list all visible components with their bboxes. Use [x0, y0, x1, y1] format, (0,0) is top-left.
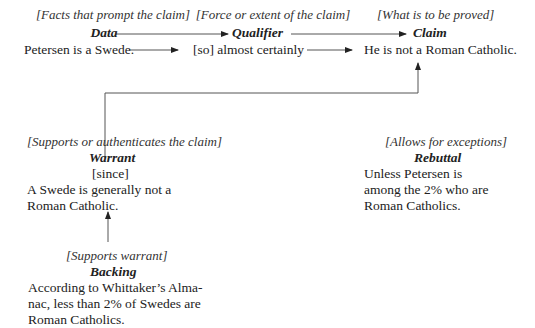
- qualifier-text: [so] almost certainly: [193, 42, 304, 58]
- backing-text-line-1: According to Whittaker’s Alma-: [28, 280, 203, 296]
- warrant-text-line-2: Roman Catholic.: [27, 198, 119, 214]
- claim-heading: Claim: [413, 25, 447, 41]
- rebuttal-text-line-2: among the 2% who are: [364, 182, 488, 198]
- claim-text: He is not a Roman Catholic.: [364, 42, 517, 58]
- backing-text-line-3: Roman Catholics.: [28, 312, 125, 328]
- data-text: Petersen is a Swede.: [24, 42, 134, 58]
- warrant-heading: Warrant: [89, 150, 135, 166]
- qualifier-note: [Force or extent of the claim]: [188, 7, 358, 23]
- warrant-connector-word: [since]: [92, 166, 129, 182]
- data-heading: Data: [84, 25, 124, 41]
- backing-text-line-2: nac, less than 2% of Swedes are: [28, 296, 201, 312]
- rebuttal-text-line-1: Unless Petersen is: [364, 166, 462, 182]
- qualifier-heading: Qualifier: [232, 25, 283, 41]
- data-note: [Facts that prompt the claim]: [36, 7, 172, 23]
- rebuttal-text-line-3: Roman Catholics.: [364, 198, 461, 214]
- claim-note: [What is to be proved]: [377, 7, 494, 23]
- warrant-text-line-1: A Swede is generally not a: [27, 182, 171, 198]
- warrant-note: [Supports or authenticates the claim]: [27, 134, 222, 150]
- rebuttal-heading: Rebuttal: [414, 150, 461, 166]
- backing-heading: Backing: [90, 264, 137, 280]
- rebuttal-note: [Allows for exceptions]: [385, 134, 507, 150]
- backing-note: [Supports warrant]: [66, 248, 168, 264]
